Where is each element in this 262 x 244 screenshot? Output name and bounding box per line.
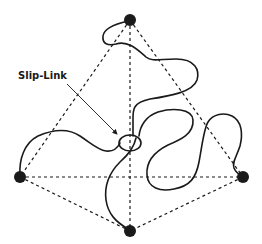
- node-bottom: [124, 225, 136, 237]
- slip-link-arrow: [67, 84, 117, 134]
- nodes: [14, 14, 249, 237]
- node-right: [237, 171, 249, 183]
- edge-top-right: [130, 20, 243, 177]
- slip-link-diagram: [0, 0, 262, 244]
- edge-left-bottom: [20, 177, 130, 231]
- chain-left: [20, 131, 120, 175]
- chain-right: [139, 110, 242, 190]
- edge-top-left: [20, 20, 130, 177]
- node-left: [14, 171, 26, 183]
- tetrahedron-edges: [20, 20, 243, 231]
- polymer-chains: [20, 21, 242, 229]
- node-top: [124, 14, 136, 26]
- chain-top: [103, 21, 198, 136]
